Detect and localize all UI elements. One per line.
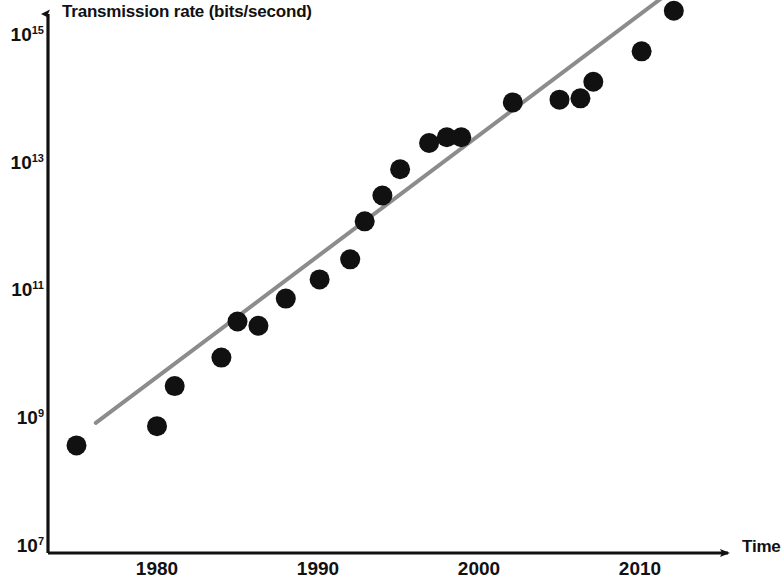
chart-canvas (0, 0, 783, 588)
data-point (228, 311, 248, 331)
y-tick-label: 1013 (0, 152, 44, 174)
data-point (583, 72, 603, 92)
data-point (310, 269, 330, 289)
data-point (451, 127, 471, 147)
data-point (248, 316, 268, 336)
data-point (664, 1, 684, 21)
data-point (390, 159, 410, 179)
data-point (632, 41, 652, 61)
data-point (503, 92, 523, 112)
data-point (276, 289, 296, 309)
x-tick-label: 2010 (600, 558, 680, 580)
data-point (570, 88, 590, 108)
data-point (340, 249, 360, 269)
axes (48, 14, 728, 553)
data-point (419, 133, 439, 153)
data-point (67, 435, 87, 455)
trendline (96, 0, 679, 423)
data-points (67, 0, 702, 455)
y-tick-label: 1015 (0, 24, 44, 46)
data-point (165, 376, 185, 396)
data-point (211, 348, 231, 368)
x-axis-title: Time (742, 537, 781, 557)
chart-figure: Transmission rate (bits/second) Time 107… (0, 0, 783, 588)
data-point (355, 211, 375, 231)
data-point (550, 90, 570, 110)
data-point (147, 416, 167, 436)
y-tick-label: 109 (0, 407, 44, 429)
y-tick-label: 107 (0, 535, 44, 557)
trendline-segment (96, 0, 679, 423)
data-point (372, 186, 392, 206)
x-tick-label: 1980 (117, 558, 197, 580)
y-tick-label: 1011 (0, 279, 44, 301)
x-tick-label: 1990 (278, 558, 358, 580)
x-tick-label: 2000 (439, 558, 519, 580)
y-axis-title: Transmission rate (bits/second) (62, 2, 312, 22)
